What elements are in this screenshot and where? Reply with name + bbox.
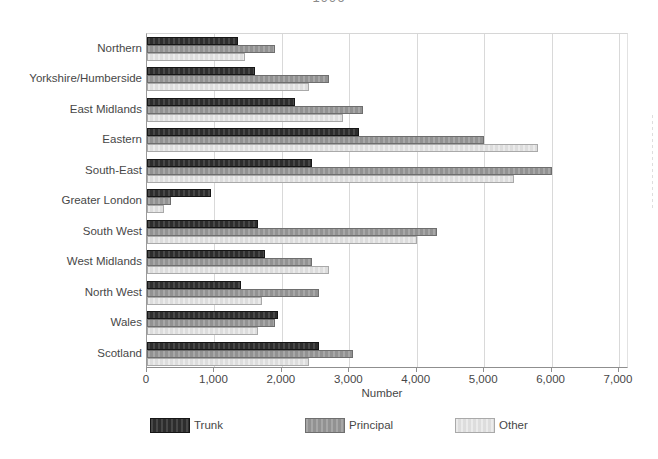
plot-area bbox=[146, 33, 628, 368]
gridline bbox=[619, 34, 620, 367]
bar-principal bbox=[147, 319, 275, 327]
bar-other bbox=[147, 327, 258, 335]
legend-label: Other bbox=[499, 419, 528, 431]
tick-mark bbox=[618, 368, 619, 372]
gridline bbox=[349, 34, 350, 367]
category-label: Northern bbox=[2, 41, 142, 55]
tick-mark bbox=[213, 368, 214, 372]
bar-trunk bbox=[147, 159, 312, 167]
legend-swatch bbox=[455, 418, 495, 433]
tick-label: 0 bbox=[121, 373, 171, 385]
bar-other bbox=[147, 83, 309, 91]
tick-mark bbox=[281, 368, 282, 372]
tick-label: 3,000 bbox=[323, 373, 373, 385]
chart-title-cropped: 1996 bbox=[0, 0, 658, 5]
bar-principal bbox=[147, 258, 312, 266]
category-label: East Midlands bbox=[2, 102, 142, 116]
legend-label: Principal bbox=[349, 419, 393, 431]
bar-principal bbox=[147, 289, 319, 297]
bar-trunk bbox=[147, 250, 265, 258]
tick-mark bbox=[146, 368, 147, 372]
category-label: Wales bbox=[2, 315, 142, 329]
bar-principal bbox=[147, 136, 484, 144]
category-label: Yorkshire/Humberside bbox=[2, 71, 142, 85]
bar-principal bbox=[147, 167, 552, 175]
bar-trunk bbox=[147, 220, 258, 228]
category-label: West Midlands bbox=[2, 254, 142, 268]
bar-other bbox=[147, 144, 538, 152]
bar-trunk bbox=[147, 128, 359, 136]
bar-trunk bbox=[147, 281, 241, 289]
bar-trunk bbox=[147, 37, 238, 45]
bar-other bbox=[147, 205, 164, 213]
gridline bbox=[417, 34, 418, 367]
bar-other bbox=[147, 236, 417, 244]
bar-principal bbox=[147, 75, 329, 83]
legend: TrunkPrincipalOther bbox=[0, 418, 658, 436]
bar-other bbox=[147, 266, 329, 274]
tick-label: 7,000 bbox=[593, 373, 643, 385]
bar-other bbox=[147, 175, 514, 183]
bar-other bbox=[147, 297, 262, 305]
bar-other bbox=[147, 114, 343, 122]
bar-other bbox=[147, 53, 245, 61]
category-label: North West bbox=[2, 285, 142, 299]
gridline bbox=[552, 34, 553, 367]
scan-artifact bbox=[652, 115, 653, 210]
tick-label: 5,000 bbox=[458, 373, 508, 385]
tick-mark bbox=[348, 368, 349, 372]
bar-principal bbox=[147, 350, 353, 358]
bar-trunk bbox=[147, 311, 278, 319]
chart-page: { "title_fragment": "1996", "chart_data"… bbox=[0, 0, 658, 459]
category-label: South-East bbox=[2, 163, 142, 177]
bar-trunk bbox=[147, 342, 319, 350]
category-label: South West bbox=[2, 224, 142, 238]
tick-label: 1,000 bbox=[188, 373, 238, 385]
category-label: Greater London bbox=[2, 193, 142, 207]
bar-principal bbox=[147, 228, 437, 236]
bar-trunk bbox=[147, 67, 255, 75]
tick-label: 6,000 bbox=[526, 373, 576, 385]
bar-principal bbox=[147, 106, 363, 114]
tick-mark bbox=[483, 368, 484, 372]
category-label: Scotland bbox=[2, 346, 142, 360]
tick-label: 2,000 bbox=[256, 373, 306, 385]
legend-swatch bbox=[150, 418, 190, 433]
bar-other bbox=[147, 358, 309, 366]
tick-mark bbox=[416, 368, 417, 372]
bar-trunk bbox=[147, 98, 295, 106]
x-axis-title: Number bbox=[146, 387, 618, 399]
category-label: Eastern bbox=[2, 132, 142, 146]
bar-principal bbox=[147, 197, 171, 205]
legend-swatch bbox=[305, 418, 345, 433]
gridline bbox=[484, 34, 485, 367]
tick-mark bbox=[551, 368, 552, 372]
legend-label: Trunk bbox=[194, 419, 223, 431]
bar-trunk bbox=[147, 189, 211, 197]
bar-principal bbox=[147, 45, 275, 53]
tick-label: 4,000 bbox=[391, 373, 441, 385]
